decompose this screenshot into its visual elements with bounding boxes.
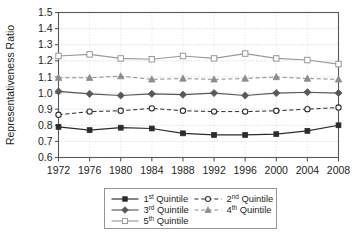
data-point-marker — [274, 132, 279, 137]
data-point-marker — [336, 123, 341, 128]
data-point-marker — [336, 61, 341, 66]
data-point-marker — [180, 108, 185, 113]
data-point-marker — [211, 109, 216, 114]
data-point-marker — [206, 197, 211, 202]
y-tick-label: 0.7 — [38, 135, 53, 147]
y-tick-label: 1.2 — [38, 54, 53, 66]
series-2 — [56, 105, 341, 118]
data-point-marker — [273, 89, 280, 96]
data-point-marker — [211, 56, 216, 61]
y-tick-label: 1.3 — [38, 38, 53, 50]
grid-lines — [59, 13, 339, 158]
data-point-marker — [274, 56, 279, 61]
data-point-marker — [87, 52, 92, 57]
y-tick-label: 1.5 — [38, 6, 53, 18]
x-tick-label: 2000 — [265, 164, 289, 176]
y-axis-title: Representativeness Ratio — [4, 25, 16, 145]
y-tick-label: 1.0 — [38, 87, 53, 99]
y-tick-label: 1.1 — [38, 71, 53, 83]
y-tick-label: 0.8 — [38, 119, 53, 131]
data-point-marker — [180, 53, 185, 58]
data-point-marker — [180, 75, 187, 81]
x-tick-label: 2008 — [327, 164, 351, 176]
chart-figure: 0.60.70.80.91.01.11.21.31.41.5 197219761… — [0, 0, 360, 235]
data-point-marker — [243, 109, 248, 114]
x-tick-label: 1984 — [140, 164, 164, 176]
data-point-marker — [56, 53, 61, 58]
x-tick-label: 1980 — [109, 164, 133, 176]
data-point-marker — [87, 109, 92, 114]
y-axis-ticks: 0.60.70.80.91.01.11.21.31.41.5 — [38, 6, 59, 163]
data-point-marker — [212, 133, 217, 138]
data-point-marker — [273, 73, 280, 79]
series-3 — [55, 88, 342, 99]
data-point-marker — [243, 133, 248, 138]
x-tick-label: 1996 — [233, 164, 257, 176]
series-line — [59, 54, 339, 64]
data-point-marker — [335, 89, 342, 96]
data-point-marker — [149, 56, 154, 61]
data-point-marker — [305, 57, 310, 62]
data-point-marker — [304, 89, 311, 96]
data-point-marker — [242, 92, 249, 99]
data-point-marker — [148, 90, 155, 97]
data-point-marker — [122, 218, 127, 223]
data-point-marker — [181, 131, 186, 136]
data-point-marker — [118, 56, 123, 61]
data-point-marker — [55, 88, 62, 95]
data-point-marker — [118, 108, 123, 113]
series-line — [59, 91, 339, 95]
data-series-group — [55, 51, 342, 138]
data-point-marker — [87, 128, 92, 133]
y-tick-label: 1.4 — [38, 22, 53, 34]
plot-frame — [59, 13, 339, 158]
data-point-marker — [56, 124, 61, 129]
data-point-marker — [118, 125, 123, 130]
data-point-marker — [123, 197, 128, 202]
data-point-marker — [179, 91, 186, 98]
series-line — [59, 125, 339, 135]
series-5 — [56, 51, 341, 67]
data-point-marker — [305, 107, 310, 112]
data-point-marker — [149, 126, 154, 131]
series-4 — [55, 73, 342, 82]
data-point-marker — [336, 105, 341, 110]
data-point-marker — [86, 90, 93, 97]
data-point-marker — [117, 73, 124, 79]
y-tick-label: 0.6 — [38, 151, 53, 163]
series-line — [59, 108, 339, 115]
y-tick-label: 0.9 — [38, 103, 53, 115]
data-point-marker — [117, 92, 124, 99]
data-point-marker — [335, 76, 342, 82]
x-axis-ticks: 1972197619801984198819921996200020042008 — [47, 158, 351, 176]
x-tick-label: 1976 — [78, 164, 102, 176]
y-axis-label: Representativeness Ratio — [4, 25, 16, 145]
data-point-marker — [305, 128, 310, 133]
data-point-marker — [274, 108, 279, 113]
representativeness-ratio-line-chart: 0.60.70.80.91.01.11.21.31.41.5 197219761… — [0, 0, 360, 235]
x-tick-label: 2004 — [296, 164, 320, 176]
data-point-marker — [56, 112, 61, 117]
x-tick-label: 1992 — [202, 164, 226, 176]
data-point-marker — [149, 106, 154, 111]
data-point-marker — [210, 89, 217, 96]
x-tick-label: 1988 — [171, 164, 195, 176]
chart-legend: 1st Quintile2nd Quintile3rd Quintile4th … — [105, 189, 277, 229]
x-tick-label: 1972 — [47, 164, 71, 176]
data-point-marker — [242, 51, 247, 56]
